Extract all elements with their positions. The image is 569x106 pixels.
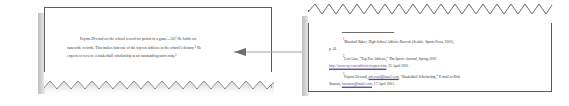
footnote-title-italic: The Sports Journal — [389, 56, 417, 61]
footnote-text-before: Lori Gun, “Top Ten Athletes,” — [344, 56, 389, 61]
footnote-item: 2Lori Gun, “Top Ten Athletes,” The Sport… — [329, 53, 543, 70]
footnote-text-before: Marshall Baker, — [344, 39, 368, 44]
footnote-item: 3Payton Devoud, pdevoud@tmail.com, “Bask… — [329, 71, 543, 88]
footnotes-list: 1Marshall Baker, High School Athletic Re… — [329, 32, 543, 88]
footnote-date: , 25 April 2001. — [386, 63, 409, 68]
footnote-text-after: , “Basketball Scholarship,” E-mail to Ki… — [399, 73, 460, 78]
footnote-item: 1Marshall Baker, High School Athletic Re… — [329, 36, 543, 53]
footnote-title-italic: High School Athletic Records — [368, 39, 411, 44]
footnote-url-link[interactable]: http://www.tsj.com/athletics/topten.htm — [329, 63, 386, 68]
footnote-text-after: , Spring 2001 — [417, 56, 437, 61]
footnote-email-link[interactable]: pdevoud@tmail.com — [369, 73, 399, 78]
footnotes-page: 1Marshall Baker, High School Athletic Re… — [308, 10, 552, 92]
footnote-recipient: Stanton, — [329, 81, 342, 86]
arrowhead-left — [234, 48, 246, 56]
footnote-separator-rule — [342, 32, 394, 33]
footnote-date: , 17 April 2001. — [372, 81, 395, 86]
footnote-text-after: (Seattle: Sports Press, 2001), — [411, 39, 454, 44]
footnote-text-before: Payton Devoud, — [344, 73, 368, 78]
footnote-recipient-email-link[interactable]: kstanton@tmail.com — [342, 81, 372, 86]
